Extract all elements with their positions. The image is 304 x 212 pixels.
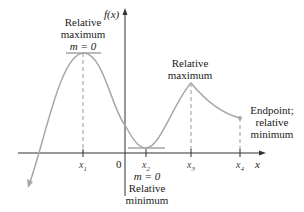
relative-minimum-label: m = 0 Relative minimum [122,170,172,206]
endpoint-dot [238,116,242,120]
x3-tick-label: x3 [187,159,195,173]
origin-label: 0 [116,158,122,170]
relative-maximum-2-label: Relative maximum [165,57,215,81]
x1-tick-label: x1 [79,159,87,173]
x-axis-label: x [255,158,260,170]
x4-tick-label: x4 [236,159,244,173]
relative-maximum-1-label: Relative maximum m = 0 [58,16,108,52]
x-axis-arrow-icon [259,151,266,156]
y-axis-arrow-icon [123,8,128,15]
endpoint-relative-minimum-label: Endpoint; relative minimum [243,104,301,140]
